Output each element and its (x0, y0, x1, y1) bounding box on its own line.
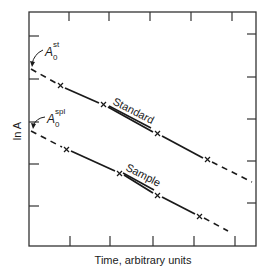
x-marker (64, 147, 69, 152)
x-marker (117, 171, 122, 176)
standard-intercept-annotation: A st 0 (30, 40, 60, 67)
x-marker (155, 193, 160, 198)
x-axis-ticks (70, 236, 235, 246)
y-axis-label: ln A (11, 121, 23, 140)
svg-text:spl: spl (55, 107, 65, 116)
x-axis-label: Time, arbitrary units (95, 254, 192, 266)
series-standard (31, 69, 252, 182)
plot-frame (29, 12, 256, 246)
svg-text:0: 0 (53, 53, 58, 62)
x-marker (155, 131, 160, 136)
top-axis-ticks (69, 12, 232, 21)
svg-text:0: 0 (55, 120, 60, 129)
svg-text:A: A (46, 112, 55, 126)
right-axis-ticks (247, 34, 256, 203)
sample-intercept-annotation: A spl 0 (31, 107, 65, 129)
x-marker (197, 214, 202, 219)
x-marker (58, 83, 63, 88)
x-marker (101, 102, 106, 107)
svg-text:st: st (53, 40, 60, 49)
svg-text:A: A (44, 45, 53, 59)
chart-figure: Standard Sample A st 0 A spl 0 ln A Time… (0, 0, 268, 270)
x-marker (205, 157, 210, 162)
